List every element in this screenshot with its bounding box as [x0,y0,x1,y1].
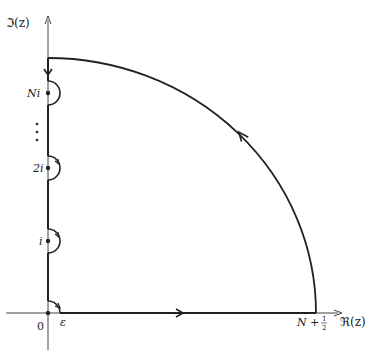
ellipsis-dot [36,139,39,142]
ellipsis-dot [36,131,39,134]
pole-label-2i: 2i [32,162,44,175]
pole-label-i: i [39,235,43,248]
contour-diagram: ℑ(z) ℜ(z) 0 ε Ni 2i i N + 1 2 [0,0,374,358]
pole-Ni [46,91,50,95]
pole-2i [46,166,50,170]
imaginary-axis-label: ℑ(z) [6,16,30,30]
ellipsis-dot [36,123,39,126]
radius-frac-den: 2 [322,324,326,332]
origin-label: 0 [37,320,44,333]
radius-frac-num: 1 [322,315,326,323]
pole-label-Ni: Ni [26,87,40,100]
real-axis-label: ℜ(z) [340,315,366,329]
epsilon-label: ε [60,316,66,329]
radius-label: N + [296,316,319,329]
pole-i [46,239,50,243]
pole-origin [46,311,50,315]
contour-arc [48,58,316,313]
